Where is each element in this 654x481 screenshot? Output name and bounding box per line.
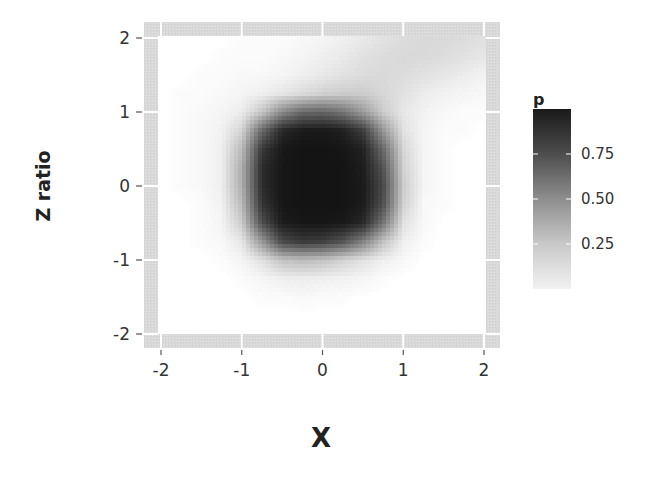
heatmap-cell <box>382 200 386 204</box>
heatmap-cell <box>358 292 362 296</box>
heatmap-cell <box>170 180 174 184</box>
heatmap-cell <box>330 184 334 188</box>
heatmap-cell <box>318 124 322 128</box>
heatmap-cell <box>230 128 234 132</box>
heatmap-cell <box>278 116 282 120</box>
heatmap-cell <box>322 168 326 172</box>
heatmap-cell <box>242 244 246 248</box>
heatmap-cell <box>286 40 290 44</box>
heatmap-cell <box>378 276 382 280</box>
heatmap-cell <box>270 92 274 96</box>
heatmap-cell <box>326 208 330 212</box>
heatmap-cell <box>246 232 250 236</box>
heatmap-cell <box>170 156 174 160</box>
heatmap-cell <box>422 72 426 76</box>
heatmap-cell <box>394 160 398 164</box>
heatmap-cell <box>298 276 302 280</box>
heatmap-cell <box>258 116 262 120</box>
heatmap-cell <box>218 164 222 168</box>
heatmap-cell <box>234 240 238 244</box>
heatmap-cell <box>426 160 430 164</box>
heatmap-cell <box>326 260 330 264</box>
heatmap-cell <box>298 96 302 100</box>
heatmap-cell <box>298 216 302 220</box>
heatmap-cell <box>234 268 238 272</box>
heatmap-cell <box>210 68 214 72</box>
heatmap-cell <box>282 128 286 132</box>
heatmap-cell <box>186 108 190 112</box>
heatmap-cell <box>350 88 354 92</box>
heatmap-cell <box>306 108 310 112</box>
heatmap-cell <box>230 104 234 108</box>
heatmap-cell <box>294 292 298 296</box>
heatmap-cell <box>246 52 250 56</box>
heatmap-cell <box>366 288 370 292</box>
heatmap-cell <box>470 92 474 96</box>
heatmap-cell <box>206 116 210 120</box>
heatmap-cell <box>434 40 438 44</box>
heatmap-cell <box>418 108 422 112</box>
heatmap-cell <box>258 128 262 132</box>
heatmap-cell <box>242 224 246 228</box>
heatmap-cell <box>302 120 306 124</box>
heatmap-cell <box>278 156 282 160</box>
heatmap-cell <box>450 176 454 180</box>
heatmap-cell <box>370 76 374 80</box>
heatmap-cell <box>458 132 462 136</box>
heatmap-cell <box>254 300 258 304</box>
heatmap-cell <box>434 100 438 104</box>
heatmap-cell <box>438 212 442 216</box>
heatmap-cell <box>382 80 386 84</box>
heatmap-cell <box>214 128 218 132</box>
heatmap-cell <box>194 212 198 216</box>
heatmap-cell <box>242 96 246 100</box>
heatmap-cell <box>378 116 382 120</box>
heatmap-cell <box>350 192 354 196</box>
heatmap-cell <box>378 100 382 104</box>
heatmap-cell <box>362 268 366 272</box>
x-grid-gap <box>241 334 243 348</box>
heatmap-cell <box>430 168 434 172</box>
heatmap-cell <box>422 236 426 240</box>
heatmap-cell <box>338 228 342 232</box>
heatmap-cell <box>414 148 418 152</box>
heatmap-cell <box>310 64 314 68</box>
heatmap-cell <box>326 124 330 128</box>
heatmap-cell <box>286 292 290 296</box>
heatmap-cell <box>310 92 314 96</box>
heatmap-cell <box>270 276 274 280</box>
heatmap-cell <box>234 256 238 260</box>
heatmap-cell <box>202 224 206 228</box>
heatmap-cell <box>386 256 390 260</box>
heatmap-cell <box>270 228 274 232</box>
heatmap-cell <box>210 236 214 240</box>
heatmap-cell <box>422 132 426 136</box>
heatmap-cell <box>214 116 218 120</box>
heatmap-cell <box>362 36 366 40</box>
heatmap-cell <box>394 244 398 248</box>
heatmap-cell <box>426 168 430 172</box>
heatmap-cell <box>238 244 242 248</box>
heatmap-cell <box>390 196 394 200</box>
heatmap-cell <box>342 228 346 232</box>
heatmap-cell <box>390 176 394 180</box>
heatmap-cell <box>294 304 298 308</box>
heatmap-cell <box>338 52 342 56</box>
heatmap-cell <box>290 252 294 256</box>
heatmap-cell <box>418 36 422 40</box>
heatmap-cell <box>302 240 306 244</box>
heatmap-cell <box>442 36 446 40</box>
heatmap-cell <box>414 80 418 84</box>
heatmap-cell <box>318 56 322 60</box>
heatmap-cell <box>418 148 422 152</box>
heatmap-cell <box>334 192 338 196</box>
heatmap-cell <box>334 300 338 304</box>
heatmap-cell <box>334 220 338 224</box>
heatmap-cell <box>302 40 306 44</box>
heatmap-cell <box>282 108 286 112</box>
heatmap-cell <box>274 104 278 108</box>
heatmap-cell <box>202 144 206 148</box>
heatmap-cell <box>186 116 190 120</box>
heatmap-cell <box>178 148 182 152</box>
heatmap-cell <box>198 92 202 96</box>
